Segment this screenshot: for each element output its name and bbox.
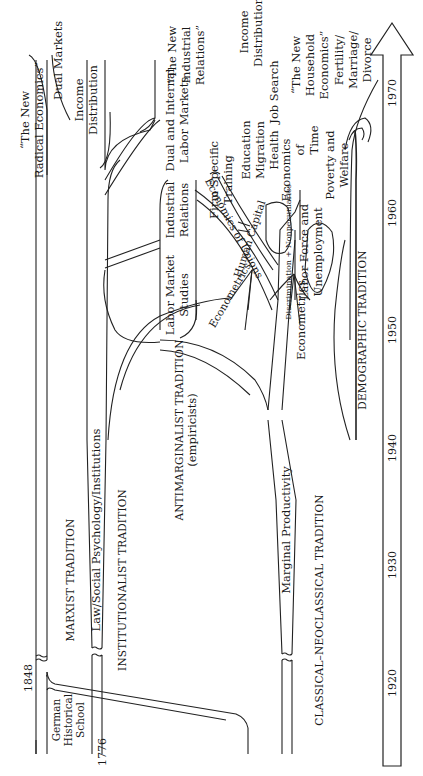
label-income-right-2: Distribution <box>251 0 265 67</box>
label-institutionalist-tradition: INSTITUTIONALIST TRADITION <box>116 489 128 671</box>
label-antimarginalist-tradition: ANTIMARGINALIST TRADITION <box>173 339 185 521</box>
label-labor-force-2: Unemployment <box>311 207 325 296</box>
label-econometrics-lower: Econometrics <box>294 280 308 360</box>
label-poverty-1: Poverty and <box>323 130 337 200</box>
label-industrial-1: Industrial <box>163 181 177 238</box>
label-new-ir-1: “The New <box>165 26 179 84</box>
label-labor-market-2: Studies <box>177 273 191 317</box>
label-migration: Migration <box>253 121 267 179</box>
label-dual-markets: Dual Markets <box>51 21 65 100</box>
label-job-search: Job Search <box>267 60 281 125</box>
label-poverty-2: Welfare <box>337 142 351 187</box>
year-1960: 1960 <box>386 199 399 227</box>
label-firm-1: Firm Specific <box>207 141 221 219</box>
label-law-social-psych: Law/Social Psychology/Institutions <box>89 428 103 631</box>
year-1970: 1970 <box>386 79 399 107</box>
label-fertility: Fertility/ <box>332 35 346 85</box>
label-firm-2: Training <box>221 155 235 205</box>
year-1950: 1950 <box>386 316 399 344</box>
label-empiricists: (empiricists) <box>185 393 199 466</box>
timeline-arrow <box>371 23 413 766</box>
label-education: Education <box>239 120 253 180</box>
label-eot-3: Time <box>307 125 321 154</box>
label-industrial-2: Relations <box>177 183 191 238</box>
label-classical-tradition: CLASSICAL–NEOCLASSICAL TRADITION <box>313 494 325 726</box>
year-1920: 1920 <box>386 669 399 697</box>
label-divorce: Divorce <box>360 37 374 82</box>
label-income-left-1: Income <box>72 78 86 121</box>
label-german-3: School <box>74 701 86 737</box>
label-income-right-1: Income <box>237 10 251 53</box>
label-radical-2: Radical Economics” <box>32 62 46 178</box>
label-eot-2: of <box>293 144 307 156</box>
label-marxist-tradition: MARXIST TRADITION <box>64 519 76 642</box>
label-labor-market-1: Labor Market <box>163 254 177 335</box>
label-radical-1: “The New <box>18 91 32 149</box>
year-1848: 1848 <box>22 664 35 692</box>
label-marriage: Marriage/ <box>346 31 360 89</box>
label-new-ir-3: Relations” <box>193 25 207 85</box>
label-new-ir-2: Industrial <box>179 26 193 83</box>
year-1940: 1940 <box>386 434 399 462</box>
year-1930: 1930 <box>386 551 399 579</box>
label-german-1: German <box>50 698 62 741</box>
label-discrimination: Discrimination + Nonpecuniaries <box>284 184 293 320</box>
label-income-left-2: Distribution <box>86 64 100 135</box>
label-dual-internal-2: Labor Markets <box>177 77 191 163</box>
label-eot-1: Economics <box>279 138 293 201</box>
labor-economics-traditions-diagram: 1920 1930 1940 1950 1960 1970 1776 1848 <box>0 0 423 776</box>
label-household-3: Economics” <box>317 31 331 100</box>
label-household-1: “The New <box>289 36 303 94</box>
label-marginal-productivity: Marginal Productivity <box>279 466 293 594</box>
label-demographic-tradition: DEMOGRAPHIC TRADITION <box>356 250 368 409</box>
label-household-2: Household <box>303 33 317 96</box>
label-german-2: Historical <box>62 693 74 746</box>
